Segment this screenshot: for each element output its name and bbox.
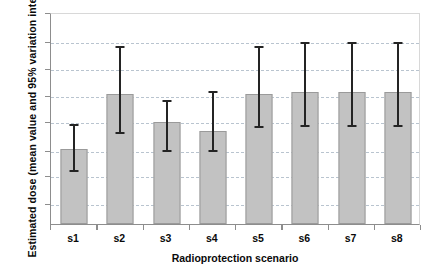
y-axis-tick bbox=[45, 69, 50, 70]
x-axis-tick bbox=[143, 225, 144, 230]
error-bar-line bbox=[397, 43, 399, 126]
error-bar-cap-lower bbox=[347, 125, 356, 127]
error-bar-cap-lower bbox=[70, 170, 79, 172]
x-axis-tick bbox=[281, 225, 282, 230]
bars-group bbox=[51, 14, 419, 224]
x-axis-title: Radioprotection scenario bbox=[50, 252, 420, 264]
x-axis-tick-label: s6 bbox=[299, 232, 311, 244]
y-axis-tick bbox=[45, 96, 50, 97]
error-bar-cap-upper bbox=[347, 42, 356, 44]
y-axis-tick bbox=[45, 176, 50, 177]
x-axis-tick-label: s8 bbox=[391, 232, 403, 244]
x-axis-tick-label: s5 bbox=[252, 232, 264, 244]
y-axis-tick bbox=[45, 151, 50, 152]
error-bar-cap-lower bbox=[393, 125, 402, 127]
error-bar-line bbox=[119, 47, 121, 133]
error-bar-cap-upper bbox=[255, 46, 264, 48]
bar-group[interactable] bbox=[375, 14, 421, 224]
x-axis-tick-label: s1 bbox=[67, 232, 79, 244]
x-axis-tick bbox=[189, 225, 190, 230]
x-axis-tick-label: s7 bbox=[345, 232, 357, 244]
error-bar-line bbox=[166, 101, 168, 151]
error-bar-line bbox=[258, 47, 260, 127]
error-bar-cap-lower bbox=[208, 150, 217, 152]
error-bar-cap-upper bbox=[116, 46, 125, 48]
y-axis-tick bbox=[45, 42, 50, 43]
error-bar-line bbox=[304, 43, 306, 126]
error-bar-cap-upper bbox=[208, 91, 217, 93]
error-bar-line bbox=[351, 43, 353, 126]
error-bar-cap-lower bbox=[301, 125, 310, 127]
plot-area bbox=[50, 13, 420, 225]
x-axis-tick bbox=[328, 225, 329, 230]
bar-group[interactable] bbox=[51, 14, 97, 224]
y-axis-title: Estimated dose (mean value and 95% varia… bbox=[26, 0, 39, 257]
y-axis-tick bbox=[45, 122, 50, 123]
x-axis-tick bbox=[96, 225, 97, 230]
bar-group[interactable] bbox=[97, 14, 143, 224]
x-axis-tick bbox=[235, 225, 236, 230]
x-axis-tick-label: s2 bbox=[114, 232, 126, 244]
bar-group[interactable] bbox=[144, 14, 190, 224]
y-axis-tick bbox=[45, 204, 50, 205]
error-bar-cap-lower bbox=[116, 132, 125, 134]
y-axis-tick bbox=[45, 13, 50, 14]
error-bar-cap-upper bbox=[301, 42, 310, 44]
bar-group[interactable] bbox=[282, 14, 328, 224]
y-axis-title-container: Estimated dose (mean value and 95% varia… bbox=[14, 0, 50, 232]
error-bar-cap-lower bbox=[162, 150, 171, 152]
error-bar-line bbox=[212, 92, 214, 151]
error-bar-cap-upper bbox=[393, 42, 402, 44]
x-axis-tick-label: s3 bbox=[160, 232, 172, 244]
error-bar-line bbox=[73, 125, 75, 171]
x-axis-tick bbox=[374, 225, 375, 230]
error-bar-cap-upper bbox=[70, 124, 79, 126]
error-bar-cap-lower bbox=[255, 126, 264, 128]
x-axis-tick-label: s4 bbox=[206, 232, 218, 244]
bar-group[interactable] bbox=[329, 14, 375, 224]
bar-group[interactable] bbox=[236, 14, 282, 224]
error-bar-cap-upper bbox=[162, 100, 171, 102]
x-axis-tick bbox=[420, 225, 421, 230]
x-axis-tick bbox=[50, 225, 51, 230]
chart-figure: Estimated dose (mean value and 95% varia… bbox=[0, 0, 435, 275]
bar-group[interactable] bbox=[190, 14, 236, 224]
